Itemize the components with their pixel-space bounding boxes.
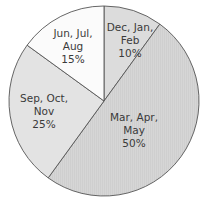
label-line: May	[110, 124, 158, 137]
label-value: 25%	[20, 118, 68, 131]
label-line: Aug	[53, 40, 92, 53]
label-line: Feb	[107, 34, 154, 47]
label-line: Jun, Jul,	[53, 27, 92, 40]
slice-label-jun-jul-aug: Jun, Jul, Aug 15%	[53, 27, 92, 66]
slice-label-mar-apr-may: Mar, Apr, May 50%	[110, 111, 158, 150]
slice-label-sep-oct-nov: Sep, Oct, Nov 25%	[20, 92, 68, 131]
slice-label-dec-jan-feb: Dec, Jan, Feb 10%	[107, 21, 154, 60]
label-line: Sep, Oct,	[20, 92, 68, 105]
label-line: Mar, Apr,	[110, 111, 158, 124]
label-value: 10%	[107, 47, 154, 60]
label-line: Dec, Jan,	[107, 21, 154, 34]
label-value: 50%	[110, 137, 158, 150]
label-line: Nov	[20, 105, 68, 118]
label-value: 15%	[53, 53, 92, 66]
